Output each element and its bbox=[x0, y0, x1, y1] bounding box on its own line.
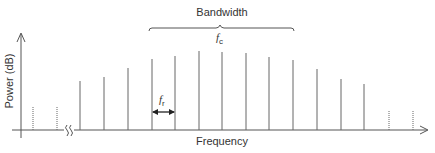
y-axis bbox=[17, 33, 25, 138]
center-frequency-label: fc bbox=[216, 31, 223, 46]
bandwidth-brace bbox=[149, 25, 294, 31]
frequency-comb-diagram: Bandwidth fc fr Frequency Power (dB) bbox=[0, 0, 435, 153]
spacing-double-arrow-icon bbox=[152, 109, 175, 115]
bandwidth-label: Bandwidth bbox=[196, 6, 247, 18]
x-axis-label: Frequency bbox=[196, 135, 248, 147]
axis-break-icon bbox=[66, 125, 73, 136]
y-axis-label: Power (dB) bbox=[3, 53, 15, 108]
repetition-rate-label: fr bbox=[159, 93, 165, 108]
spectral-lines bbox=[33, 51, 413, 130]
